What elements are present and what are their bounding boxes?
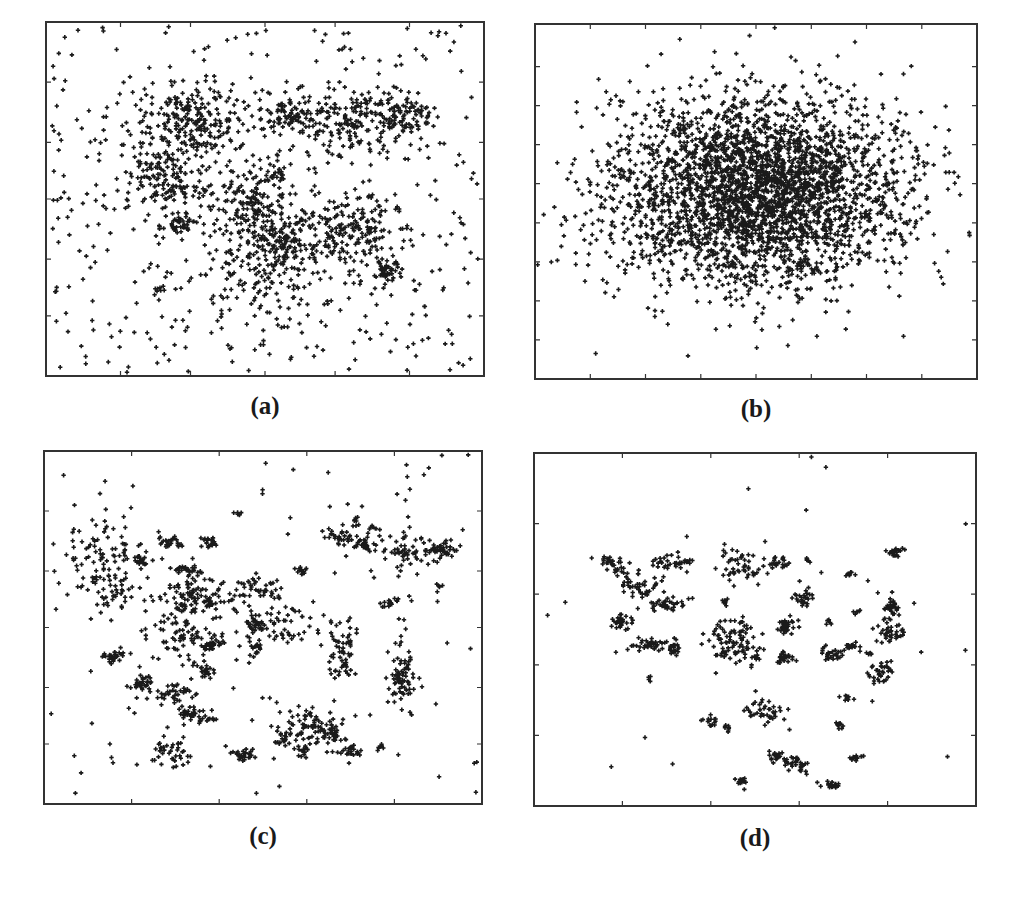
plot-frame (46, 22, 484, 376)
scatter-panel-a (46, 22, 484, 376)
data-points (50, 24, 480, 375)
caption-c: (c) (203, 822, 323, 850)
data-points (49, 453, 479, 796)
caption-b: (b) (696, 395, 816, 423)
plot-frame (535, 24, 977, 379)
scatter-plot-c (44, 451, 482, 804)
caption-d: (d) (695, 824, 815, 852)
axis-ticks (46, 22, 484, 376)
scatter-plot-a (46, 22, 484, 376)
scatter-panel-c (44, 451, 482, 804)
scatter-panel-d (534, 453, 976, 806)
axis-ticks (535, 24, 977, 379)
data-points (545, 455, 968, 792)
scatter-panel-b (535, 24, 977, 379)
axis-ticks (534, 453, 976, 806)
plot-frame (534, 453, 976, 806)
scatter-plot-d (534, 453, 976, 806)
scatter-plot-b (535, 24, 977, 379)
data-points (536, 26, 972, 359)
caption-a: (a) (205, 392, 325, 420)
